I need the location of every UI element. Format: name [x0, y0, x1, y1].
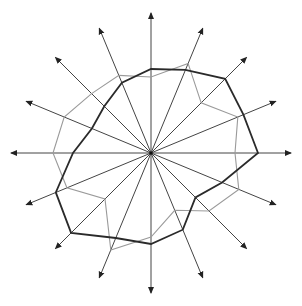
axis-arrow	[56, 153, 152, 249]
radar-diagram	[0, 0, 302, 306]
axis-arrow	[56, 58, 152, 154]
axis-arrow	[151, 153, 247, 249]
radar-svg	[0, 0, 302, 306]
light-series-polygon	[53, 63, 239, 250]
center-point	[149, 151, 152, 154]
